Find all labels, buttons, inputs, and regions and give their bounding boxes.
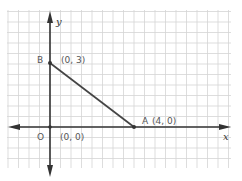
origin-name: O xyxy=(37,132,44,142)
x-axis-label: x xyxy=(223,131,229,142)
point-b-name: B xyxy=(37,55,43,65)
origin-coord: (0, 0) xyxy=(60,132,84,142)
origin-marker xyxy=(48,125,52,129)
y-axis-label: y xyxy=(55,16,62,27)
grid xyxy=(7,10,231,168)
coordinate-plane: y x B (0, 3) A (4, 0) O (0, 0) xyxy=(0,0,242,181)
point-a-marker xyxy=(132,125,136,129)
y-axis-arrow-up-icon xyxy=(47,11,53,23)
point-a-name: A xyxy=(142,116,149,126)
point-b-coord: (0, 3) xyxy=(61,55,85,65)
point-a-coord: (4, 0) xyxy=(152,116,176,126)
point-b-marker xyxy=(48,61,52,65)
y-axis-arrow-down-icon xyxy=(47,165,53,177)
x-axis-arrow-left-icon xyxy=(8,124,20,130)
x-axis-arrow-right-icon xyxy=(219,124,231,130)
